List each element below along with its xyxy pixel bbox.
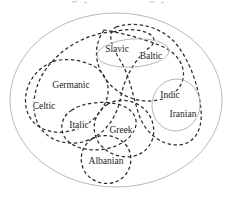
solid-group-indo-iranian xyxy=(149,76,204,134)
label-greek: Greek xyxy=(109,125,132,135)
label-iranian: Iranian xyxy=(170,109,197,119)
diagram-canvas: Slavic Baltic Germanic Celtic Italic Gre… xyxy=(0,0,232,199)
scan-specks xyxy=(72,1,164,3)
label-baltic: Baltic xyxy=(140,51,163,61)
dashed-loop-celtic-germanic xyxy=(25,60,108,133)
label-indic: Indic xyxy=(160,90,180,100)
label-italic: Italic xyxy=(69,120,89,130)
label-germanic: Germanic xyxy=(52,80,89,90)
language-family-diagram: Slavic Baltic Germanic Celtic Italic Gre… xyxy=(0,0,232,199)
label-albanian: Albanian xyxy=(89,156,124,166)
label-celtic: Celtic xyxy=(33,101,56,111)
label-slavic: Slavic xyxy=(105,44,129,54)
